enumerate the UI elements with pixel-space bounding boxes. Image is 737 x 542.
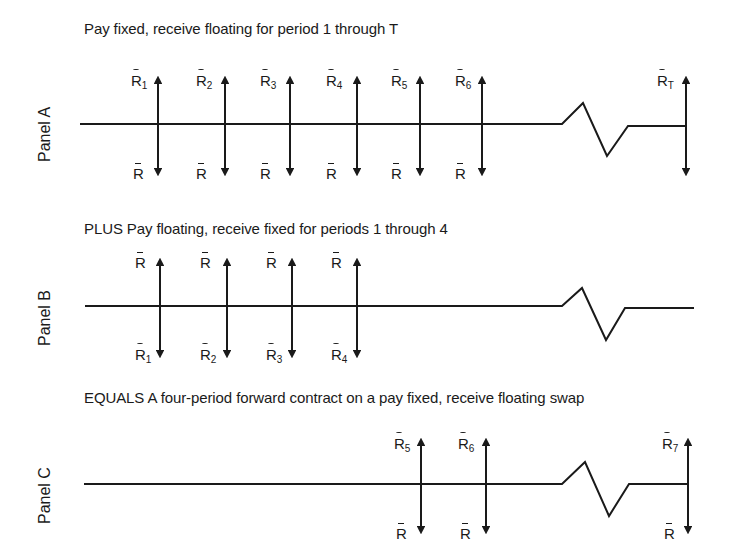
panel-a-bottom-label-5: R bbox=[391, 166, 402, 181]
panel-a-top-label-3: R3 bbox=[260, 73, 276, 91]
panel-a-top-label-4: R4 bbox=[326, 73, 342, 91]
panel-b-bottom-label-3: R3 bbox=[266, 347, 282, 365]
panel-c-top-label-5: R5 bbox=[394, 436, 410, 454]
panel-c-bottom-label-6: R bbox=[460, 526, 471, 541]
panel-b-top-label-4: R bbox=[331, 255, 342, 270]
panel-a-top-label-T: RT bbox=[657, 73, 674, 91]
panel-b-bottom-label-4: R4 bbox=[331, 347, 347, 365]
panel-c-bottom-label-7: R bbox=[664, 526, 675, 541]
panel-a-top-label-1: R1 bbox=[131, 73, 147, 91]
panel-a-bottom-label-4: R bbox=[326, 166, 337, 181]
panel-a-timeline bbox=[80, 103, 686, 156]
panel-c-timeline bbox=[84, 462, 688, 516]
panel-b-timeline bbox=[85, 288, 694, 340]
panel-c-top-label-6: R6 bbox=[458, 436, 474, 454]
panel-c-top-label-7: R7 bbox=[662, 436, 678, 454]
panel-b-bottom-label-1: R1 bbox=[135, 347, 151, 365]
panel-a-top-label-5: R5 bbox=[391, 73, 407, 91]
panel-c-bottom-label-5: R bbox=[396, 526, 407, 541]
panel-a-top-label-6: R6 bbox=[455, 73, 471, 91]
panel-b-top-label-2: R bbox=[200, 255, 211, 270]
panel-b-top-label-1: R bbox=[135, 255, 146, 270]
panel-a-bottom-label-1: R bbox=[133, 166, 144, 181]
panel-b-bottom-label-2: R2 bbox=[200, 347, 216, 365]
panel-a-top-label-2: R2 bbox=[196, 73, 212, 91]
panel-b-top-label-3: R bbox=[266, 255, 277, 270]
panel-a-bottom-label-2: R bbox=[196, 166, 207, 181]
panel-a-bottom-label-6: R bbox=[455, 166, 466, 181]
panel-a-bottom-label-3: R bbox=[260, 166, 271, 181]
